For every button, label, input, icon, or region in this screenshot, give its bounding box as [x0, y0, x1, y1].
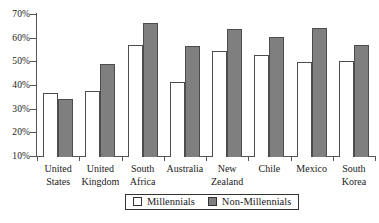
x-axis-label: United Kingdom — [79, 163, 121, 188]
bar-groups — [37, 14, 375, 157]
y-tick-label: 70% — [0, 9, 30, 19]
bar-group — [164, 14, 206, 157]
bar-group — [79, 14, 121, 157]
chart-legend: Millennials Non-Millennials — [125, 194, 299, 210]
x-axis-label: South Korea — [333, 163, 375, 188]
bar-millennials — [339, 61, 354, 157]
legend-label-millennials: Millennials — [147, 196, 195, 207]
bar-non-millennials — [100, 64, 115, 157]
bar-millennials — [43, 93, 58, 157]
y-tick-label: 60% — [0, 33, 30, 43]
bar-non-millennials — [269, 37, 284, 157]
legend-entry-non-millennials: Non-Millennials — [208, 196, 291, 207]
x-axis-label: South Africa — [122, 163, 164, 188]
x-axis-labels: United StatesUnited KingdomSouth AfricaA… — [37, 163, 375, 188]
bar-millennials — [212, 51, 227, 158]
bar-non-millennials — [143, 23, 158, 157]
y-tick-mark — [30, 132, 36, 133]
bar-millennials — [128, 45, 143, 157]
y-tick-label: 50% — [0, 56, 30, 66]
y-tick-label: 40% — [0, 80, 30, 90]
bar-millennials — [297, 62, 312, 157]
x-axis-label: New Zealand — [206, 163, 248, 188]
bar-millennials — [85, 91, 100, 157]
y-tick-mark — [30, 109, 36, 110]
bar-chart: 10%20%30%40%50%60%70% United StatesUnite… — [0, 0, 379, 223]
y-tick-label: 20% — [0, 127, 30, 137]
y-tick-mark — [30, 85, 36, 86]
bar-non-millennials — [354, 45, 369, 157]
bar-non-millennials — [185, 46, 200, 157]
y-tick-label: 30% — [0, 104, 30, 114]
bar-group — [37, 14, 79, 157]
bar-non-millennials — [58, 99, 73, 157]
legend-swatch-non-millennials — [208, 197, 217, 206]
bar-group — [333, 14, 375, 157]
legend-label-non-millennials: Non-Millennials — [222, 196, 291, 207]
y-tick-mark — [30, 38, 36, 39]
x-axis-label: Mexico — [291, 163, 333, 188]
bar-non-millennials — [312, 28, 327, 157]
x-axis-label: United States — [37, 163, 79, 188]
y-tick-mark — [30, 14, 36, 15]
legend-entry-millennials: Millennials — [133, 196, 195, 207]
y-tick-label: 10% — [0, 151, 30, 161]
bar-group — [291, 14, 333, 157]
y-tick-mark — [30, 61, 36, 62]
x-tick-mark — [375, 156, 376, 161]
bar-group — [206, 14, 248, 157]
x-axis-label: Chile — [248, 163, 290, 188]
bar-group — [122, 14, 164, 157]
bar-group — [248, 14, 290, 157]
legend-swatch-millennials — [133, 197, 142, 206]
y-tick-mark — [30, 156, 36, 157]
bar-millennials — [254, 55, 269, 157]
bar-millennials — [170, 82, 185, 157]
x-axis-label: Australia — [164, 163, 206, 188]
bar-non-millennials — [227, 29, 242, 157]
